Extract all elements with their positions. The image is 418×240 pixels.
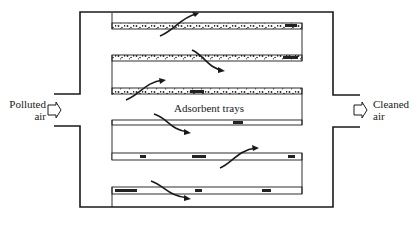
housing-lower-outline xyxy=(54,126,360,207)
trays-label: Adsorbent trays xyxy=(174,102,244,114)
outlet-arrow-icon xyxy=(354,102,367,118)
tray-band-6 xyxy=(112,187,302,194)
outlet-label: Cleaned air xyxy=(373,98,418,122)
inlet-arrow-icon xyxy=(48,102,61,118)
tray-band-2 xyxy=(112,55,302,61)
inlet-label-line2: air xyxy=(0,110,46,122)
inlet-label: Polluted air xyxy=(0,98,46,122)
inlet-label-line1: Polluted xyxy=(0,98,46,110)
tray-band-4 xyxy=(112,120,302,125)
tray-band-1 xyxy=(112,23,302,29)
outlet-label-line1: Cleaned xyxy=(373,98,418,110)
outlet-label-line2: air xyxy=(373,110,418,122)
